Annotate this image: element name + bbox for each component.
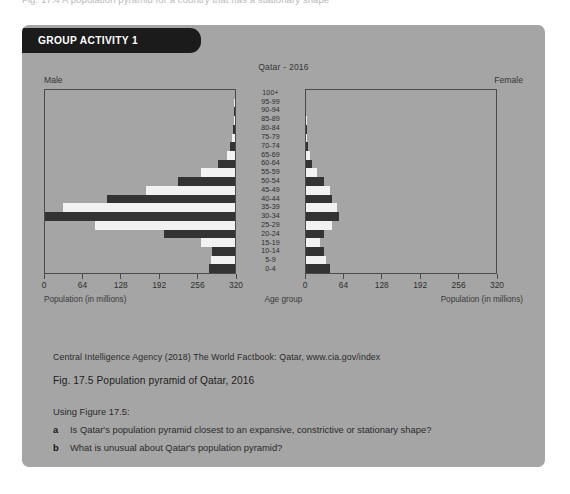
x-axis-caption-left: Population (in millions): [44, 295, 126, 304]
x-tick: [381, 274, 382, 279]
bar-row: [306, 247, 496, 256]
x-tick-label-0: 0: [303, 280, 308, 290]
age-group-label-90-94: 90-94: [236, 107, 305, 116]
bar-male-40-44: [107, 195, 235, 204]
bar-female-20-24: [306, 230, 324, 239]
x-tick: [82, 274, 83, 279]
bar-male-65-69: [227, 151, 235, 160]
question-item-b: bWhat is unusual about Qatar's populatio…: [53, 442, 282, 453]
bar-female-35-39: [306, 203, 337, 212]
age-group-label-45-49: 45-49: [236, 186, 305, 195]
bar-row: [45, 168, 235, 177]
age-group-label-60-64: 60-64: [236, 160, 305, 169]
bar-male-35-39: [63, 203, 235, 212]
bar-row: [306, 203, 496, 212]
bar-row: [45, 221, 235, 230]
bar-row: [45, 134, 235, 143]
group-activity-banner: GROUP ACTIVITY 1: [22, 28, 201, 53]
x-tick: [120, 274, 121, 279]
age-group-label-5-9: 5-9: [236, 256, 305, 265]
bar-row: [45, 177, 235, 186]
question-marker-b: b: [53, 442, 70, 453]
x-axis-caption-center: Age group: [265, 295, 303, 304]
page-running-text: Fig. 17.4 A population pyramid for a cou…: [22, 0, 542, 8]
bar-female-40-44: [306, 195, 332, 204]
bar-row: [306, 134, 496, 143]
age-group-label-40-44: 40-44: [236, 195, 305, 204]
bar-row: [306, 151, 496, 160]
bar-row: [306, 230, 496, 239]
question-marker-a: a: [53, 424, 70, 435]
bar-male-25-29: [95, 221, 235, 230]
bar-row: [45, 264, 235, 273]
bar-male-5-9: [211, 256, 235, 265]
bar-male-20-24: [164, 230, 235, 239]
bar-female-55-59: [306, 168, 317, 177]
x-tick-label-128: 128: [114, 280, 128, 290]
bar-male-70-74: [230, 142, 235, 151]
bar-female-0-4: [306, 264, 330, 273]
age-group-label-75-79: 75-79: [236, 133, 305, 142]
age-group-axis: 100+95-9990-9485-8980-8475-7970-7465-696…: [236, 89, 305, 274]
bar-row: [306, 90, 496, 99]
bar-female-25-29: [306, 221, 332, 230]
bar-male-60-64: [218, 160, 235, 169]
bar-row: [45, 212, 235, 221]
x-axis-labels-male: 320256192128640: [44, 280, 236, 292]
chart-source-citation: Central Intelligence Agency (2018) The W…: [53, 352, 380, 362]
age-group-label-100+: 100+: [236, 89, 305, 98]
bar-row: [306, 264, 496, 273]
bar-row: [45, 186, 235, 195]
plot-panel-female: [305, 89, 497, 274]
age-group-label-15-19: 15-19: [236, 239, 305, 248]
bar-male-45-49: [146, 186, 235, 195]
x-axis-labels-female: 064128192256320: [305, 280, 497, 292]
age-group-label-80-84: 80-84: [236, 124, 305, 133]
chart-label-female: Female: [494, 75, 523, 85]
activity-instruction: Using Figure 17.5:: [53, 406, 130, 417]
bar-row: [45, 125, 235, 134]
question-text-a: Is Qatar's population pyramid closest to…: [70, 424, 431, 435]
age-group-label-95-99: 95-99: [236, 98, 305, 107]
bar-row: [306, 160, 496, 169]
x-tick-label-192: 192: [413, 280, 427, 290]
bar-row: [45, 142, 235, 151]
x-tick-label-128: 128: [375, 280, 389, 290]
bar-female-15-19: [306, 238, 320, 247]
x-axis-ticks-female: [305, 274, 497, 279]
bar-row: [306, 186, 496, 195]
question-item-a: aIs Qatar's population pyramid closest t…: [53, 424, 431, 435]
bar-male-0-4: [209, 264, 235, 273]
bar-row: [45, 116, 235, 125]
bar-row: [45, 151, 235, 160]
plot-panel-male: [44, 89, 236, 274]
bar-row: [306, 238, 496, 247]
age-group-label-85-89: 85-89: [236, 115, 305, 124]
population-pyramid-chart: Qatar - 2016 Male Female 100+95-9990-948…: [22, 57, 545, 344]
bar-row: [306, 221, 496, 230]
bar-female-10-14: [306, 247, 324, 256]
bar-male-75-79: [232, 134, 235, 143]
bar-male-80-84: [233, 125, 235, 134]
bar-female-60-64: [306, 160, 312, 169]
bar-female-80-84: [306, 125, 307, 134]
chart-label-male: Male: [44, 75, 63, 85]
bar-female-75-79: [306, 134, 307, 143]
x-tick-label-0: 0: [42, 280, 47, 290]
bar-row: [306, 177, 496, 186]
bar-male-10-14: [212, 247, 235, 256]
age-group-label-20-24: 20-24: [236, 230, 305, 239]
age-group-label-50-54: 50-54: [236, 177, 305, 186]
bar-row: [306, 168, 496, 177]
x-tick: [497, 274, 498, 279]
bar-row: [45, 99, 235, 108]
bar-male-90-94: [234, 107, 235, 116]
bar-female-85-89: [306, 116, 307, 125]
bar-male-95-99: [234, 99, 235, 108]
bar-row: [45, 195, 235, 204]
bar-female-65-69: [306, 151, 310, 160]
bar-row: [306, 116, 496, 125]
x-tick: [44, 274, 45, 279]
age-group-label-70-74: 70-74: [236, 142, 305, 151]
question-text-b: What is unusual about Qatar's population…: [70, 442, 282, 453]
